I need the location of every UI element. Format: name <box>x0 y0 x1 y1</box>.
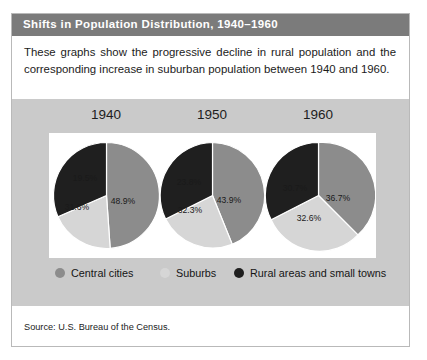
pie-svg-1960: 36.7% 30.7% 32.6% <box>262 139 375 252</box>
pie-chart-1950: 43.9% 23.8% 32.3% <box>156 139 269 252</box>
legend-item-suburbs: Suburbs <box>160 267 216 279</box>
pie-label-rural-1960: 32.6% <box>297 213 322 223</box>
year-label-1950: 1950 <box>167 107 257 122</box>
legend-swatch-central-cities-icon <box>55 268 65 278</box>
legend: Central cities Suburbs Rural areas and s… <box>12 267 409 287</box>
pie-svg-1950: 43.9% 23.8% 32.3% <box>156 139 269 252</box>
pie-label-suburbs-1950: 23.8% <box>177 177 202 187</box>
chart-band: 1940 1950 1960 48.9% 19.5% 31.6% <box>12 99 409 306</box>
legend-label-suburbs: Suburbs <box>176 267 216 279</box>
pie-chart-1940: 48.9% 19.5% 31.6% <box>50 139 163 252</box>
figure-title-bar: Shifts in Population Distribution, 1940–… <box>12 14 409 36</box>
year-label-1960: 1960 <box>273 107 363 122</box>
pie-label-central-cities-1940: 48.9% <box>111 196 136 206</box>
figure-title: Shifts in Population Distribution, 1940–… <box>23 18 278 30</box>
pie-label-rural-1950: 32.3% <box>178 205 203 215</box>
pie-label-suburbs-1940: 19.5% <box>73 173 98 183</box>
pie-label-suburbs-1960: 30.7% <box>283 183 308 193</box>
pie-chart-1960: 36.7% 30.7% 32.6% <box>262 139 375 252</box>
figure-container: Shifts in Population Distribution, 1940–… <box>11 13 410 347</box>
legend-label-rural: Rural areas and small towns <box>250 267 386 279</box>
year-label-row: 1940 1950 1960 <box>12 107 409 127</box>
legend-item-central-cities: Central cities <box>55 267 133 279</box>
figure-intro-text: These graphs show the progressive declin… <box>24 44 396 77</box>
pie-label-central-cities-1950: 43.9% <box>217 195 242 205</box>
pie-svg-1940: 48.9% 19.5% 31.6% <box>50 139 163 252</box>
pie-label-central-cities-1960: 36.7% <box>326 193 351 203</box>
legend-label-central-cities: Central cities <box>71 267 133 279</box>
source-area: Source: U.S. Bureau of the Census. <box>12 306 409 346</box>
legend-swatch-suburbs-icon <box>160 268 170 278</box>
pie-label-rural-1940: 31.6% <box>65 202 90 212</box>
pie-chart-panel: 48.9% 19.5% 31.6% 43.9% 23.8% 32.3% <box>49 133 376 258</box>
legend-swatch-rural-icon <box>234 268 244 278</box>
source-note: Source: U.S. Bureau of the Census. <box>24 322 170 332</box>
legend-item-rural: Rural areas and small towns <box>234 267 386 279</box>
year-label-1940: 1940 <box>61 107 151 122</box>
